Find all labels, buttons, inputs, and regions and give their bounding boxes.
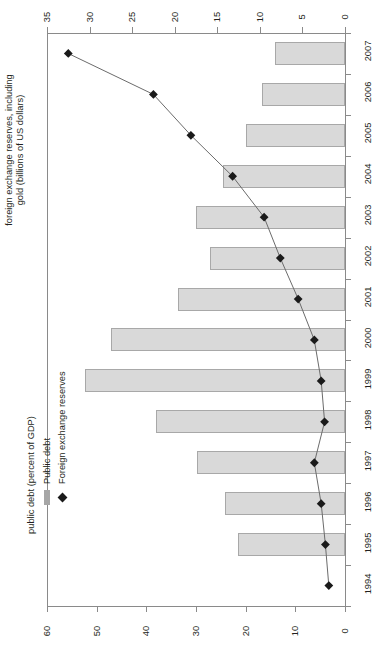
debt-tick <box>47 606 48 612</box>
year-tick <box>345 115 351 116</box>
year-tick <box>345 483 351 484</box>
reserves-tick-label: 25 <box>127 4 137 30</box>
legend-swatch-bar-icon <box>44 490 50 505</box>
year-tick <box>345 156 351 157</box>
reserves-axis-title-line1: foreign exchange reserves, including <box>4 0 16 300</box>
debt-tick <box>146 606 147 612</box>
bar-1997 <box>197 451 345 474</box>
reserves-tick-label: 15 <box>212 4 222 30</box>
reserves-axis-title-line2: gold (billions of US dollars) <box>15 0 27 300</box>
bar-2001 <box>178 288 345 311</box>
bar-2003 <box>196 206 345 229</box>
debt-tick-label: 0 <box>340 618 350 644</box>
year-label-1998: 1998 <box>363 403 373 437</box>
year-tick <box>345 606 351 607</box>
reserves-tick-label: 0 <box>340 4 350 30</box>
year-label-1997: 1997 <box>363 444 373 478</box>
legend-label-reserves: Foreign exchange reserves <box>57 371 67 484</box>
year-tick <box>345 320 351 321</box>
year-label-2001: 2001 <box>363 280 373 314</box>
year-label-2007: 2007 <box>363 34 373 68</box>
year-label-2006: 2006 <box>363 75 373 109</box>
plot-area <box>47 33 345 606</box>
year-label-2000: 2000 <box>363 321 373 355</box>
debt-tick <box>196 606 197 612</box>
debt-tick-label: 60 <box>42 618 52 644</box>
bar-1995 <box>238 533 345 556</box>
debt-tick-label: 40 <box>141 618 151 644</box>
bar-2000 <box>111 328 345 351</box>
debt-tick-label: 20 <box>241 618 251 644</box>
reserves-tick-label: 20 <box>170 4 180 30</box>
year-label-1996: 1996 <box>363 485 373 519</box>
bar-1996 <box>225 492 345 515</box>
bar-2002 <box>210 247 345 270</box>
year-label-2002: 2002 <box>363 239 373 273</box>
bar-1999 <box>85 369 345 392</box>
year-tick <box>345 360 351 361</box>
year-tick <box>345 565 351 566</box>
year-label-1999: 1999 <box>363 362 373 396</box>
legend-label-public-debt: Public debt <box>42 438 52 484</box>
bar-2005 <box>246 124 345 147</box>
debt-tick <box>97 606 98 612</box>
year-label-2003: 2003 <box>363 198 373 232</box>
year-label-1995: 1995 <box>363 526 373 560</box>
bar-1998 <box>156 410 345 433</box>
reserves-tick-label: 5 <box>297 4 307 30</box>
year-tick <box>345 442 351 443</box>
year-label-2005: 2005 <box>363 116 373 150</box>
reserves-tick-label: 10 <box>255 4 265 30</box>
chart-canvas: foreign exchange reserves, including gol… <box>0 0 381 651</box>
debt-axis-title: public debt (percent of GDP) <box>26 350 38 600</box>
debt-tick-label: 30 <box>191 618 201 644</box>
year-tick <box>345 238 351 239</box>
debt-tick <box>246 606 247 612</box>
bar-2004 <box>223 165 345 188</box>
bar-2006 <box>262 83 345 106</box>
year-tick <box>345 33 351 34</box>
debt-tick-label: 10 <box>290 618 300 644</box>
debt-tick-label: 50 <box>92 618 102 644</box>
year-label-1994: 1994 <box>363 567 373 601</box>
year-tick <box>345 279 351 280</box>
bar-2007 <box>275 42 345 65</box>
year-tick <box>345 197 351 198</box>
year-tick <box>345 401 351 402</box>
reserves-tick-label: 30 <box>85 4 95 30</box>
year-tick <box>345 524 351 525</box>
debt-tick <box>295 606 296 612</box>
year-label-2004: 2004 <box>363 157 373 191</box>
reserves-tick-label: 35 <box>42 4 52 30</box>
year-tick <box>345 74 351 75</box>
